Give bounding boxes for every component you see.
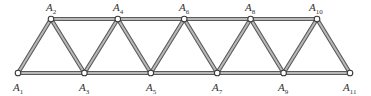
label-A1: A1 <box>12 81 24 96</box>
joint-A9 <box>281 70 287 76</box>
label-A5: A5 <box>145 81 157 96</box>
member-A1-A2 <box>18 19 51 73</box>
joint-labels: A1A2A3A4A5A6A7A8A9A10A11 <box>12 1 357 96</box>
joint-A11 <box>347 70 353 76</box>
member-A2-A3 <box>51 19 84 73</box>
label-A3: A3 <box>78 81 90 96</box>
label-A11: A11 <box>342 81 357 96</box>
label-A2: A2 <box>45 1 57 16</box>
joint-A6 <box>181 16 187 22</box>
truss-diagram: A1A2A3A4A5A6A7A8A9A10A11 <box>0 0 371 96</box>
member-A9-A10 <box>284 19 317 73</box>
joint-A8 <box>248 16 254 22</box>
member-A7-A8 <box>217 19 250 73</box>
member-A3-A4 <box>84 19 117 73</box>
joint-A2 <box>48 16 54 22</box>
label-A6: A6 <box>178 1 190 16</box>
label-A7: A7 <box>211 81 223 96</box>
truss-members <box>18 19 350 73</box>
member-A6-A7 <box>184 19 217 73</box>
label-A8: A8 <box>244 1 256 16</box>
label-A4: A4 <box>112 1 124 16</box>
member-A8-A9 <box>251 19 284 73</box>
label-A10: A10 <box>308 1 323 16</box>
joint-A3 <box>82 70 88 76</box>
member-A5-A6 <box>151 19 184 73</box>
joint-A4 <box>115 16 121 22</box>
joint-A5 <box>148 70 154 76</box>
label-A9: A9 <box>277 81 289 96</box>
joint-A7 <box>214 70 220 76</box>
member-A4-A5 <box>118 19 151 73</box>
joint-A1 <box>15 70 21 76</box>
member-A10-A11 <box>317 19 350 73</box>
joint-A10 <box>314 16 320 22</box>
